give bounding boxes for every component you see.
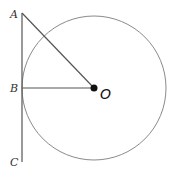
label-o: O (100, 86, 111, 102)
center-point-o (91, 85, 98, 92)
geometry-diagram: A B C O (0, 0, 175, 174)
label-c: C (10, 156, 19, 169)
label-a: A (9, 8, 18, 21)
label-b: B (9, 82, 18, 95)
